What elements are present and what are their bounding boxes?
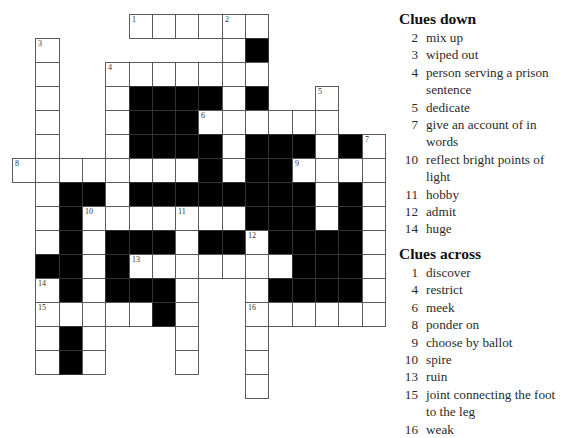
grid-cell[interactable] <box>82 254 106 279</box>
grid-cell[interactable] <box>338 302 363 327</box>
grid-cell[interactable] <box>362 158 386 183</box>
grid-cell[interactable] <box>222 110 246 135</box>
grid-cell[interactable] <box>35 230 60 255</box>
grid-cell[interactable] <box>175 62 199 87</box>
grid-cell[interactable] <box>222 86 246 111</box>
grid-cell[interactable] <box>268 110 293 135</box>
grid-cell[interactable] <box>222 206 246 231</box>
grid-cell-8[interactable]: 8 <box>12 158 36 183</box>
grid-cell[interactable] <box>175 278 199 303</box>
grid-cell[interactable] <box>222 62 246 87</box>
grid-cell[interactable] <box>245 62 269 87</box>
grid-cell[interactable] <box>268 302 293 327</box>
grid-cell[interactable] <box>222 134 246 159</box>
grid-cell[interactable] <box>198 254 223 279</box>
grid-cell[interactable] <box>222 158 246 183</box>
grid-cell[interactable] <box>35 86 60 111</box>
grid-cell[interactable] <box>362 254 386 279</box>
grid-cell[interactable] <box>315 206 339 231</box>
grid-cell-1[interactable]: 1 <box>129 14 153 39</box>
grid-cell[interactable] <box>175 14 199 39</box>
grid-cell[interactable] <box>59 158 83 183</box>
grid-cell-11[interactable]: 11 <box>175 206 199 231</box>
grid-cell[interactable] <box>362 206 386 231</box>
grid-cell-3[interactable]: 3 <box>35 38 60 63</box>
grid-cell[interactable] <box>362 182 386 207</box>
grid-cell[interactable] <box>105 182 130 207</box>
grid-cell-9[interactable]: 9 <box>292 158 316 183</box>
grid-cell[interactable] <box>175 230 199 255</box>
grid-cell[interactable] <box>82 158 106 183</box>
grid-cell[interactable] <box>175 302 199 327</box>
grid-cell[interactable] <box>245 374 269 399</box>
grid-cell[interactable] <box>292 302 316 327</box>
grid-cell-4[interactable]: 4 <box>105 62 130 87</box>
grid-cell[interactable] <box>222 38 246 63</box>
grid-cell[interactable] <box>129 158 153 183</box>
grid-cell-2[interactable]: 2 <box>222 14 246 39</box>
grid-cell[interactable] <box>129 302 153 327</box>
grid-cell-5[interactable]: 5 <box>315 86 339 111</box>
grid-cell[interactable] <box>129 206 153 231</box>
grid-cell[interactable] <box>152 206 176 231</box>
grid-cell[interactable] <box>362 302 386 327</box>
grid-cell[interactable] <box>82 278 106 303</box>
grid-cell[interactable] <box>105 134 130 159</box>
grid-cell[interactable] <box>315 182 339 207</box>
grid-cell[interactable] <box>152 158 176 183</box>
grid-cell-10[interactable]: 10 <box>82 206 106 231</box>
grid-cell[interactable] <box>198 14 223 39</box>
grid-cell[interactable] <box>245 110 269 135</box>
grid-cell[interactable] <box>315 302 339 327</box>
grid-cell-6[interactable]: 6 <box>198 110 223 135</box>
grid-cell[interactable] <box>245 326 269 351</box>
grid-cell-7[interactable]: 7 <box>362 134 386 159</box>
grid-cell[interactable] <box>198 62 223 87</box>
grid-cell[interactable] <box>338 158 363 183</box>
grid-cell[interactable] <box>105 110 130 135</box>
grid-cell[interactable] <box>362 230 386 255</box>
grid-cell[interactable] <box>82 350 106 375</box>
grid-cell[interactable] <box>35 182 60 207</box>
grid-cell[interactable] <box>82 326 106 351</box>
grid-cell-15[interactable]: 15 <box>35 302 60 327</box>
grid-cell[interactable] <box>198 206 223 231</box>
grid-cell[interactable] <box>82 302 106 327</box>
grid-cell[interactable] <box>35 110 60 135</box>
grid-cell[interactable] <box>268 254 293 279</box>
grid-cell[interactable] <box>35 62 60 87</box>
grid-cell[interactable] <box>59 302 83 327</box>
grid-cell[interactable] <box>245 14 269 39</box>
grid-cell[interactable] <box>35 206 60 231</box>
grid-cell[interactable] <box>315 134 339 159</box>
grid-cell[interactable] <box>292 110 316 135</box>
grid-cell[interactable] <box>152 14 176 39</box>
grid-cell[interactable] <box>362 278 386 303</box>
grid-cell[interactable] <box>175 350 199 375</box>
grid-cell[interactable] <box>82 230 106 255</box>
grid-cell[interactable] <box>129 62 153 87</box>
grid-cell[interactable] <box>35 134 60 159</box>
grid-cell[interactable] <box>105 206 130 231</box>
grid-cell[interactable] <box>105 158 130 183</box>
grid-cell[interactable] <box>245 278 269 303</box>
grid-cell[interactable] <box>35 158 60 183</box>
grid-cell[interactable] <box>175 254 199 279</box>
grid-cell-14[interactable]: 14 <box>35 278 60 303</box>
grid-cell[interactable] <box>152 62 176 87</box>
grid-cell[interactable] <box>315 158 339 183</box>
grid-cell-12[interactable]: 12 <box>245 230 269 255</box>
grid-cell[interactable] <box>175 326 199 351</box>
grid-cell-13[interactable]: 13 <box>129 254 153 279</box>
grid-cell[interactable] <box>152 254 176 279</box>
grid-cell[interactable] <box>222 254 246 279</box>
grid-cell[interactable] <box>175 158 199 183</box>
grid-cell[interactable] <box>315 110 339 135</box>
grid-cell[interactable] <box>35 326 60 351</box>
grid-cell[interactable] <box>105 302 130 327</box>
grid-cell[interactable] <box>35 350 60 375</box>
grid-cell[interactable] <box>245 254 269 279</box>
grid-cell-16[interactable]: 16 <box>245 302 269 327</box>
grid-cell[interactable] <box>245 350 269 375</box>
grid-cell[interactable] <box>105 86 130 111</box>
